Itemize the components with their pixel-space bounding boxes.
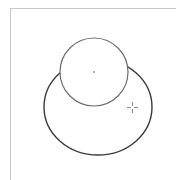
drawing-app: Drawing canvas Large ellipse Small circl… — [0, 0, 178, 180]
shapes-layer — [0, 0, 178, 180]
crosshair-cursor-icon — [127, 102, 138, 113]
circle-center-point-icon — [93, 71, 95, 73]
